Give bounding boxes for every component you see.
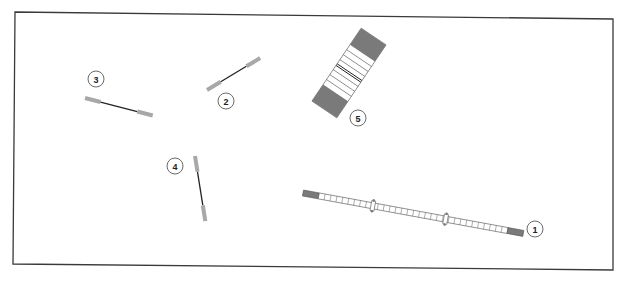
label-5: 5	[355, 114, 360, 124]
label-2-badge: 2	[218, 93, 234, 109]
label-4: 4	[172, 162, 177, 172]
label-3: 3	[93, 75, 98, 85]
label-1-badge: 1	[527, 221, 543, 237]
label-1: 1	[532, 225, 537, 235]
diagram-canvas: 1 2 3 4 5	[0, 0, 625, 281]
label-2: 2	[223, 97, 228, 107]
label-4-badge: 4	[167, 158, 183, 174]
label-5-badge: 5	[350, 110, 366, 126]
label-3-badge: 3	[88, 71, 104, 87]
